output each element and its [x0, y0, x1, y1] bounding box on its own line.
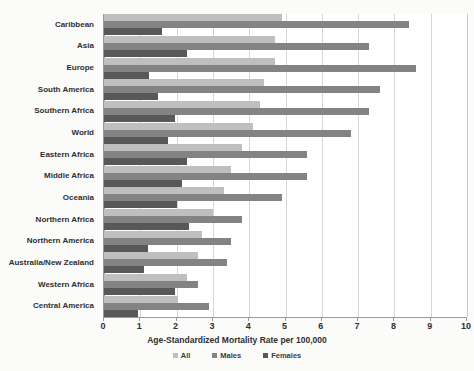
bar-group: [104, 123, 467, 144]
bar-females: [104, 310, 138, 317]
bar-group: [104, 14, 467, 35]
bar-males: [104, 173, 307, 180]
x-tick-label-2: 2: [173, 321, 178, 331]
x-tick-label-0: 0: [100, 321, 105, 331]
bar-females: [104, 72, 149, 79]
category-label: Northern Africa: [36, 215, 94, 224]
bar-females: [104, 115, 175, 122]
bar-group: [104, 209, 467, 230]
bar-all: [104, 231, 202, 238]
bar-all: [104, 274, 187, 281]
bar-group: [104, 101, 467, 122]
chart-legend: AllMalesFemales: [0, 351, 474, 360]
bar-females: [104, 158, 187, 165]
bar-group: [104, 231, 467, 252]
category-label: Oceania: [63, 193, 94, 202]
legend-item[interactable]: All: [173, 351, 191, 360]
category-label: Caribbean: [55, 20, 94, 29]
x-tick-label-4: 4: [246, 321, 251, 331]
category-label: Western Africa: [38, 280, 94, 289]
bar-females: [104, 288, 175, 295]
bar-males: [104, 43, 369, 50]
bar-females: [104, 28, 162, 35]
bar-group: [104, 296, 467, 317]
bar-females: [104, 180, 182, 187]
category-label: Eastern Africa: [40, 150, 94, 159]
legend-swatch-icon: [263, 353, 268, 358]
bar-all: [104, 252, 198, 259]
bar-females: [104, 223, 189, 230]
bar-all: [104, 209, 213, 216]
x-tick-label-8: 8: [391, 321, 396, 331]
bar-groups: [104, 14, 467, 317]
category-label: South America: [38, 85, 94, 94]
bar-group: [104, 144, 467, 165]
legend-swatch-icon: [173, 353, 178, 358]
plot-area: [103, 14, 467, 317]
bar-females: [104, 201, 177, 208]
legend-swatch-icon: [212, 353, 217, 358]
bar-males: [104, 130, 351, 137]
bar-males: [104, 86, 380, 93]
bar-all: [104, 187, 224, 194]
bar-females: [104, 93, 158, 100]
bar-group: [104, 79, 467, 100]
category-label: Southern Africa: [34, 106, 94, 115]
bar-males: [104, 151, 307, 158]
category-label: Asia: [77, 41, 94, 50]
x-axis-ticks: 012345678910: [103, 318, 466, 330]
bar-males: [104, 108, 369, 115]
bar-all: [104, 123, 253, 130]
legend-label: All: [181, 351, 191, 360]
bar-all: [104, 14, 282, 21]
bar-males: [104, 216, 242, 223]
bar-males: [104, 21, 409, 28]
bar-all: [104, 79, 264, 86]
x-tick-label-3: 3: [209, 321, 214, 331]
bar-all: [104, 58, 275, 65]
legend-label: Females: [271, 351, 301, 360]
x-tick-label-1: 1: [137, 321, 142, 331]
bar-males: [104, 65, 416, 72]
x-axis-title: Age-Standardized Mortality Rate per 100,…: [0, 335, 474, 345]
category-label: Middle Africa: [44, 171, 94, 180]
bar-females: [104, 50, 187, 57]
category-axis-labels: CaribbeanAsiaEuropeSouth AmericaSouthern…: [0, 14, 99, 317]
x-tick-label-9: 9: [427, 321, 432, 331]
bar-group: [104, 274, 467, 295]
x-tick-label-7: 7: [355, 321, 360, 331]
bar-group: [104, 187, 467, 208]
category-label: Northern America: [27, 236, 94, 245]
x-tick-label-10: 10: [461, 321, 471, 331]
bar-all: [104, 36, 275, 43]
bar-females: [104, 137, 168, 144]
category-label: Australia/New Zealand: [9, 258, 94, 267]
bar-males: [104, 259, 227, 266]
bar-group: [104, 36, 467, 57]
bar-all: [104, 101, 260, 108]
bar-females: [104, 266, 144, 273]
bar-group: [104, 252, 467, 273]
bar-chart: CaribbeanAsiaEuropeSouth AmericaSouthern…: [0, 0, 474, 371]
legend-item[interactable]: Males: [212, 351, 241, 360]
x-tick-label-5: 5: [282, 321, 287, 331]
bar-all: [104, 144, 242, 151]
gridline-10: [467, 14, 468, 317]
bar-all: [104, 296, 178, 303]
category-label: Central America: [33, 301, 94, 310]
category-label: World: [71, 128, 94, 137]
legend-item[interactable]: Females: [263, 351, 301, 360]
bar-males: [104, 194, 282, 201]
bar-females: [104, 245, 148, 252]
legend-label: Males: [220, 351, 241, 360]
x-tick-label-6: 6: [318, 321, 323, 331]
bar-males: [104, 281, 198, 288]
category-label: Europe: [66, 63, 94, 72]
bar-males: [104, 303, 209, 310]
bar-males: [104, 238, 231, 245]
bar-group: [104, 166, 467, 187]
bar-group: [104, 58, 467, 79]
bar-all: [104, 166, 231, 173]
